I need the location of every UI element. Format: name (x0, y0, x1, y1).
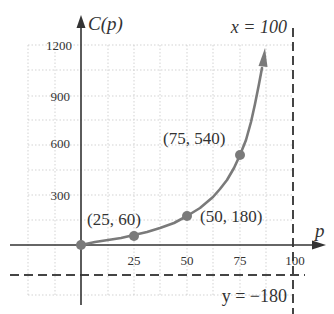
y-axis-label: C(p) (88, 13, 123, 35)
grid (28, 45, 293, 295)
horizontal-asymptote-label: y = −180 (222, 286, 287, 306)
x-tick-label: 50 (181, 253, 194, 268)
y-tick-label: 1200 (46, 38, 72, 53)
point-50-180 (182, 211, 192, 221)
x-tick-label: 25 (128, 253, 141, 268)
point-origin (76, 240, 86, 250)
x-tick-label: 75 (234, 253, 247, 268)
y-axis-arrow-icon (77, 15, 86, 28)
x-tick-label: 100 (285, 253, 305, 268)
point-annotation: (75, 540) (163, 129, 225, 148)
point-annotation: (25, 60) (87, 210, 141, 229)
vertical-asymptote-label: x = 100 (230, 17, 287, 37)
x-axis-arrow-icon (312, 241, 326, 250)
curve-arrow-icon (259, 48, 268, 67)
y-tick-label: 300 (51, 188, 71, 203)
point-75-540 (235, 150, 245, 160)
point-25-60 (129, 231, 139, 241)
point-annotation: (50, 180) (200, 207, 262, 226)
x-axis-label: p (313, 220, 325, 241)
y-tick-label: 600 (51, 136, 71, 151)
y-tick-label: 900 (51, 89, 71, 104)
rational-function-graph: 1200 900 600 300 25 50 75 100 C(p) p (25… (0, 0, 334, 314)
